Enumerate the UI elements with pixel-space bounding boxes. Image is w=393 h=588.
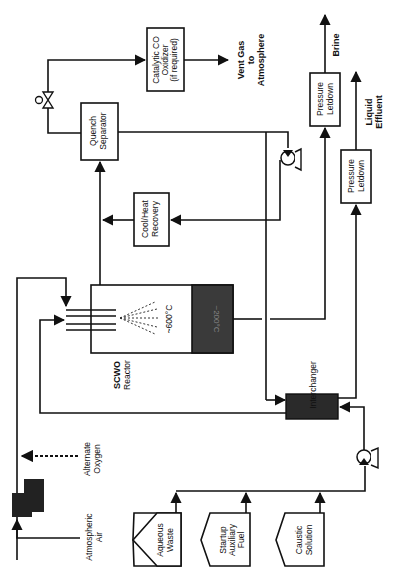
svg-text:Reactor: Reactor (122, 360, 132, 390)
cool-heat-recovery: Cool/Heat Recovery (134, 193, 169, 246)
svg-text:~600°C: ~600°C (164, 305, 174, 334)
svg-text:Oxygen: Oxygen (92, 444, 102, 474)
svg-text:Letdown: Letdown (325, 83, 335, 115)
pump-to-interchanger-line (340, 407, 364, 450)
svg-text:to: to (246, 55, 256, 64)
air-intake-line (17, 520, 80, 538)
svg-text:SCWO: SCWO (112, 361, 122, 389)
brine-label: Brine (331, 33, 341, 56)
pressure-letdown-brine: Pressure Letdown (310, 73, 340, 126)
gas-to-oxidizer-line (48, 60, 145, 92)
scwo-reactor: ~200°C ~600°C SCWO Reactor (91, 285, 233, 390)
pressure-letdown-liquid: Pressure Letdown (341, 150, 371, 203)
svg-text:Caustic: Caustic (294, 525, 304, 554)
feed-header-line (176, 466, 365, 491)
pump-to-recovery-line (210, 160, 280, 220)
process-flow-diagram: Catalytic CO Oxidizer (if required) Vent… (0, 0, 393, 588)
svg-text:Alternate: Alternate (82, 442, 92, 476)
svg-text:Aqueous: Aqueous (155, 523, 165, 557)
startup-fuel-feed: Startup Auxiliary Fuel (201, 513, 250, 566)
atmospheric-air-label: Atmospheric Air (84, 513, 104, 561)
svg-text:Cool/Heat: Cool/Heat (140, 199, 150, 237)
svg-text:Air: Air (94, 532, 104, 543)
svg-text:Pressure: Pressure (315, 82, 325, 116)
catalytic-co-oxidizer: Catalytic CO Oxidizer (if required) (147, 28, 184, 91)
interchanger: Interchanger (286, 361, 338, 419)
interchanger-to-letdown-line (338, 210, 356, 398)
separator-gas-line (48, 108, 81, 133)
vent-gas-label: Vent Gas to Atmosphere (236, 34, 266, 87)
svg-text:Vent Gas: Vent Gas (236, 41, 246, 80)
reactor-outlet-line-b (270, 150, 325, 319)
caustic-solution-feed: Caustic Solution (276, 513, 324, 566)
svg-text:Solution: Solution (304, 524, 314, 555)
svg-text:Separator: Separator (98, 112, 108, 149)
pump-inlet-line (266, 132, 288, 148)
liquid-effluent-label: Liquid Effluent (364, 95, 384, 129)
aqueous-waste-feed: Aqueous Waste (133, 513, 181, 566)
svg-text:Fuel: Fuel (236, 532, 246, 549)
svg-text:Letdown: Letdown (356, 160, 366, 192)
svg-text:Atmosphere: Atmosphere (256, 34, 266, 87)
svg-text:Interchanger: Interchanger (308, 361, 318, 409)
feed-pump-icon (357, 448, 378, 468)
svg-text:Recovery: Recovery (150, 200, 160, 237)
svg-text:Waste: Waste (165, 528, 175, 552)
svg-text:Effluent: Effluent (374, 95, 384, 129)
svg-text:Pressure: Pressure (346, 159, 356, 193)
pump-icon (281, 149, 301, 170)
oxidizer-label-3: (if required) (169, 38, 179, 82)
svg-text:Liquid: Liquid (364, 99, 374, 126)
svg-text:Atmospheric: Atmospheric (84, 513, 94, 561)
valve-icon (36, 92, 54, 108)
svg-text:~200°C: ~200°C (212, 306, 221, 333)
svg-text:Quench: Quench (88, 116, 98, 146)
alternate-oxygen-label: Alternate Oxygen (82, 442, 102, 476)
quench-separator: Quench Separator (81, 103, 118, 160)
